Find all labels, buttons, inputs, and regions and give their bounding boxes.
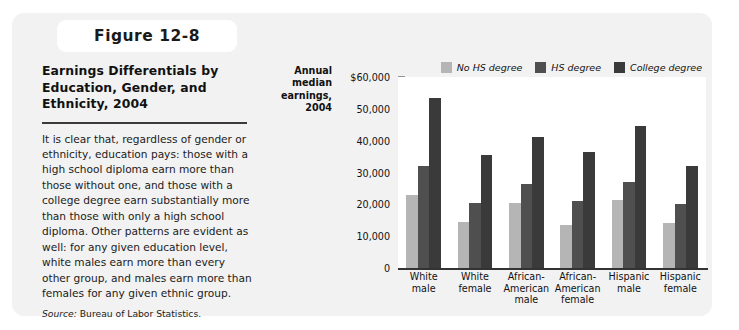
x-axis-line	[398, 268, 708, 270]
figure-body-text: It is clear that, regardless of gender o…	[42, 132, 252, 302]
bar[interactable]	[623, 182, 635, 268]
x-axis-label: African-Americanfemale	[553, 271, 603, 306]
bar[interactable]	[469, 203, 481, 268]
title-divider	[42, 122, 247, 124]
x-axis-label: Hispanicfemale	[655, 271, 705, 306]
legend-label: College degree	[630, 62, 702, 73]
bar[interactable]	[675, 204, 687, 268]
bar-group	[451, 77, 499, 268]
y-tick-label: 40,000	[356, 135, 390, 146]
y-axis-title-line: Annual	[270, 65, 332, 77]
bar[interactable]	[481, 155, 493, 268]
x-axis-label-line: female	[655, 283, 705, 295]
y-axis-ticks: 010,00020,00030,00040,00050,000$60,000	[338, 57, 398, 268]
caption-column: Earnings Differentials by Education, Gen…	[42, 63, 252, 319]
bar[interactable]	[532, 137, 544, 268]
bar-group	[400, 77, 448, 268]
x-axis-label: Whitemale	[399, 271, 449, 306]
chart-legend: No HS degreeHS degreeCollege degree	[398, 59, 706, 75]
bar[interactable]	[509, 203, 521, 268]
figure-title: Earnings Differentials by Education, Gen…	[42, 63, 252, 113]
bar-group	[656, 77, 704, 268]
y-tick-label: 20,000	[356, 199, 390, 210]
x-axis-label-line: White	[450, 271, 500, 283]
legend-label: No HS degree	[457, 62, 523, 73]
legend-item[interactable]: College degree	[614, 62, 702, 73]
source-label: Source:	[42, 308, 77, 319]
y-axis-title-line: earnings,	[270, 90, 332, 102]
bar[interactable]	[635, 126, 647, 268]
x-axis-label-line: American	[553, 283, 603, 295]
legend-label: HS degree	[551, 62, 601, 73]
x-axis-label-line: male	[399, 283, 449, 295]
bar[interactable]	[406, 195, 418, 268]
bar-group	[502, 77, 550, 268]
source-text: Bureau of Labor Statistics.	[77, 308, 201, 319]
y-tick-label: 10,000	[356, 231, 390, 242]
x-axis-label-line: Hispanic	[655, 271, 705, 283]
bar[interactable]	[418, 166, 430, 268]
figure-number-tab: Figure 12-8	[57, 20, 237, 52]
legend-item[interactable]: No HS degree	[441, 62, 523, 73]
x-axis-label: Whitefemale	[450, 271, 500, 306]
chart-block: Annualmedianearnings,2004 010,00020,0003…	[270, 57, 710, 297]
x-axis-label-line: White	[399, 271, 449, 283]
plot-wrapper: 010,00020,00030,00040,00050,000$60,000 N…	[338, 57, 708, 297]
x-axis-label: African-Americanmale	[501, 271, 551, 306]
figure-panel: Figure 12-8 Earnings Differentials by Ed…	[12, 13, 712, 316]
bar[interactable]	[583, 152, 595, 268]
x-axis-label-line: female	[553, 294, 603, 306]
bars-layer	[398, 77, 706, 268]
bar[interactable]	[458, 222, 470, 268]
y-tick-label: 50,000	[356, 103, 390, 114]
bar[interactable]	[521, 184, 533, 268]
y-tick-label: 0	[384, 263, 390, 274]
x-axis-label-line: male	[501, 294, 551, 306]
bar[interactable]	[429, 98, 441, 268]
bar[interactable]	[686, 166, 698, 268]
bar[interactable]	[560, 225, 572, 268]
legend-swatch-icon	[535, 62, 546, 73]
x-axis-label-line: Hispanic	[604, 271, 654, 283]
x-axis-labels: WhitemaleWhitefemaleAfrican-Americanmale…	[398, 271, 706, 306]
y-tick-label: 30,000	[356, 167, 390, 178]
legend-swatch-icon	[441, 62, 452, 73]
legend-item[interactable]: HS degree	[535, 62, 601, 73]
bar-group	[554, 77, 602, 268]
figure-source: Source: Bureau of Labor Statistics.	[42, 308, 252, 319]
x-axis-label-line: female	[450, 283, 500, 295]
bar-group	[605, 77, 653, 268]
bar[interactable]	[572, 201, 584, 268]
x-axis-label-line: African-	[501, 271, 551, 283]
x-axis-label: Hispanicmale	[604, 271, 654, 306]
figure-number-label: Figure 12-8	[94, 27, 200, 45]
x-axis-label-line: male	[604, 283, 654, 295]
bar[interactable]	[663, 223, 675, 268]
x-axis-label-line: American	[501, 283, 551, 295]
bar[interactable]	[612, 200, 624, 268]
legend-swatch-icon	[614, 62, 625, 73]
y-axis-title-line: median	[270, 77, 332, 89]
y-axis-title: Annualmedianearnings,2004	[270, 65, 332, 114]
y-tick-label: $60,000	[350, 72, 390, 83]
y-axis-title-line: 2004	[270, 102, 332, 114]
x-axis-label-line: African-	[553, 271, 603, 283]
